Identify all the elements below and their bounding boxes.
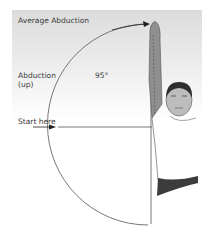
diagram-title: Average Abduction [18, 16, 89, 25]
arrow-head-icon [143, 21, 150, 27]
movement-label: Abduction [18, 71, 56, 80]
shirt-shape [157, 176, 198, 196]
raised-arm [149, 22, 162, 118]
motion-arc [48, 24, 149, 225]
movement-direction: (up) [18, 80, 33, 89]
motion-arrow [112, 24, 148, 30]
angle-label: 95° [95, 71, 108, 80]
start-label: Start here [18, 117, 56, 126]
